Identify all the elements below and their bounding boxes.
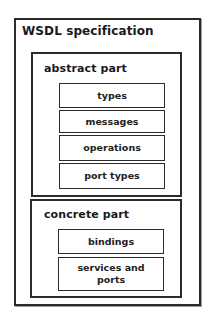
concrete-item-bindings: bindings: [58, 229, 164, 254]
abstract-item-operations: operations: [59, 135, 165, 161]
concrete-item-services-and-ports: services and ports: [58, 257, 164, 291]
concrete-part-label: concrete part: [44, 208, 129, 221]
abstract-item-port-types: port types: [59, 163, 165, 189]
abstract-part-label: abstract part: [44, 62, 127, 75]
abstract-item-messages: messages: [59, 110, 165, 133]
wsdl-specification-title: WSDL specification: [22, 24, 154, 38]
abstract-item-types: types: [59, 83, 165, 108]
